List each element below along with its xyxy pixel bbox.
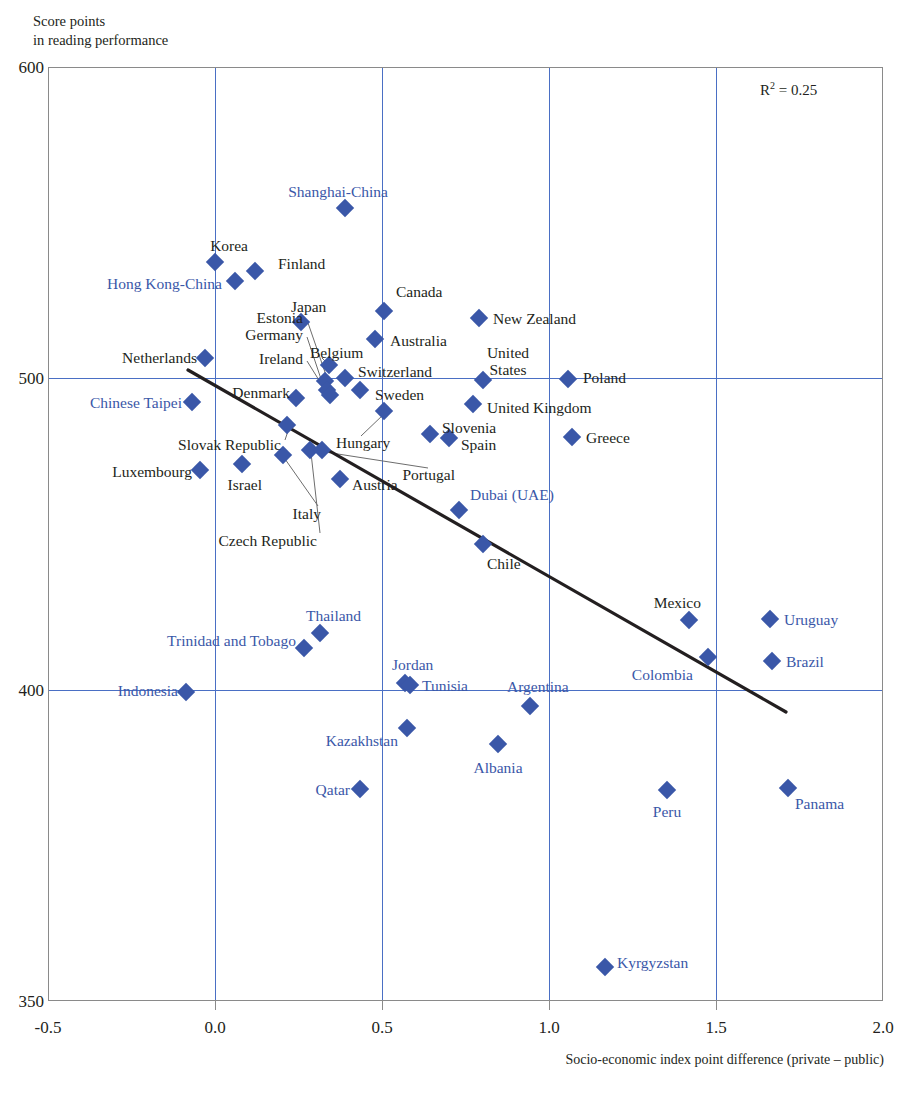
data-label-greece: Greece <box>586 429 630 446</box>
data-label-finland: Finland <box>278 255 325 272</box>
data-label-united-kingdom: United Kingdom <box>487 399 592 416</box>
x-axis-tick-0 <box>215 1001 216 1010</box>
x-axis-tick-1 <box>382 1001 383 1010</box>
data-label-jordan: Jordan <box>392 656 433 673</box>
data-label-switzerland: Switzerland <box>358 363 432 380</box>
plot-area <box>48 67 883 1001</box>
data-label-slovenia: Slovenia <box>442 419 496 436</box>
x-tick-05: 0.5 <box>352 1018 412 1038</box>
data-label-korea: Korea <box>210 237 248 254</box>
data-label-denmark: Denmark <box>232 384 290 401</box>
y-axis-caption: Score points in reading performance <box>33 12 168 50</box>
data-label-portugal: Portugal <box>402 466 455 483</box>
data-label-new-zealand: New Zealand <box>493 310 576 327</box>
x-tick-20: 2.0 <box>853 1018 902 1038</box>
r-squared-symbol: R <box>760 82 770 98</box>
data-label-argentina: Argentina <box>507 678 569 695</box>
data-label-sweden: Sweden <box>375 386 424 403</box>
data-label-poland: Poland <box>583 369 626 386</box>
data-label-dubai-uae: Dubai (UAE) <box>470 486 554 503</box>
data-label-australia: Australia <box>390 332 447 349</box>
data-label-kazakhstan: Kazakhstan <box>326 732 398 749</box>
data-label-mexico: Mexico <box>654 594 701 611</box>
x-tick-neg05: -0.5 <box>18 1018 78 1038</box>
data-label-shanghai-china: Shanghai-China <box>288 183 388 200</box>
data-label-brazil: Brazil <box>786 653 824 670</box>
x-axis-tick-3 <box>716 1001 717 1010</box>
data-label-qatar: Qatar <box>316 781 350 798</box>
y-tick-400: 400 <box>4 681 44 701</box>
y-tick-500: 500 <box>4 369 44 389</box>
data-label-czech-republic: Czech Republic <box>218 532 317 549</box>
data-label-estonia: Estonia <box>257 309 304 326</box>
data-label-peru: Peru <box>653 803 681 820</box>
data-label-hong-kong-china: Hong Kong-China <box>107 275 222 292</box>
data-label-israel: Israel <box>228 476 262 493</box>
x-axis-tick-2 <box>549 1001 550 1010</box>
data-label-canada: Canada <box>396 283 442 300</box>
data-label-panama: Panama <box>795 795 844 812</box>
data-label-spain: Spain <box>461 436 496 453</box>
data-label-luxembourg: Luxembourg <box>112 463 192 480</box>
data-label-united-states: United States <box>487 344 529 378</box>
x-tick-15: 1.5 <box>686 1018 746 1038</box>
data-label-belgium: Belgium <box>310 344 363 361</box>
data-label-trinidad-and-tobago: Trinidad and Tobago <box>167 632 296 649</box>
y-tick-600: 600 <box>4 58 44 78</box>
x-axis-caption: Socio-economic index point difference (p… <box>565 1052 884 1068</box>
data-label-colombia: Colombia <box>632 666 693 683</box>
data-label-netherlands: Netherlands <box>122 349 197 366</box>
data-label-chinese-taipei: Chinese Taipei <box>90 394 182 411</box>
r-squared-value: = 0.25 <box>779 82 817 98</box>
data-label-ireland: Ireland <box>259 350 303 367</box>
x-tick-10: 1.0 <box>519 1018 579 1038</box>
r-squared-annotation: R2 = 0.25 <box>760 80 817 99</box>
data-label-indonesia: Indonesia <box>118 682 178 699</box>
data-label-thailand: Thailand <box>306 607 361 624</box>
data-label-germany: Germany <box>245 326 303 343</box>
data-label-slovak-republic: Slovak Republic <box>178 436 281 453</box>
data-label-chile: Chile <box>487 555 521 572</box>
data-label-hungary: Hungary <box>336 434 390 451</box>
data-label-austria: Austria <box>352 476 398 493</box>
data-label-italy: Italy <box>293 505 321 522</box>
data-label-tunisia: Tunisia <box>422 677 468 694</box>
data-label-kyrgyzstan: Kyrgyzstan <box>617 954 688 971</box>
x-tick-00: 0.0 <box>185 1018 245 1038</box>
vertical-gridline-3 <box>716 68 717 1000</box>
r-squared-exponent: 2 <box>770 80 775 91</box>
vertical-gridline-1 <box>382 68 383 1000</box>
vertical-gridline-0 <box>215 68 216 1000</box>
horizontal-gridline-0 <box>49 378 882 379</box>
y-tick-350: 350 <box>4 992 44 1012</box>
data-label-uruguay: Uruguay <box>784 611 838 628</box>
vertical-gridline-2 <box>549 68 550 1000</box>
data-label-albania: Albania <box>473 759 522 776</box>
